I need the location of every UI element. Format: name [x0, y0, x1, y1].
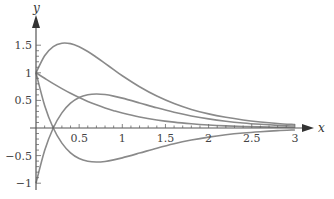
ticks [36, 45, 295, 183]
x-tick-label: 1 [119, 132, 126, 145]
x-tick-label: 2 [205, 132, 212, 145]
y-tick-label: 1 [25, 67, 32, 80]
curve-from-1-down [36, 73, 295, 162]
y-tick-label: −0.5 [5, 150, 32, 163]
plot-curves [36, 43, 295, 183]
y-tick-label: 1.5 [15, 39, 33, 52]
x-axis-arrow-icon [302, 124, 314, 132]
curve-peak-1.5 [36, 43, 295, 125]
y-tick-label: 0.5 [15, 94, 33, 107]
x-tick-label: 2.5 [243, 132, 261, 145]
x-axis-label: x [318, 121, 325, 135]
y-tick-label: −1 [16, 177, 32, 190]
y-axis-label: y [32, 1, 40, 15]
tick-labels: 0.511.522.531.510.5−0.5−1 [5, 39, 298, 190]
y-axis-arrow-icon [32, 15, 40, 28]
x-tick-label: 1.5 [157, 132, 175, 145]
x-tick-label: 0.5 [70, 132, 88, 145]
chart: x y 0.511.522.531.510.5−0.5−1 [0, 0, 334, 199]
x-tick-label: 3 [291, 132, 298, 145]
